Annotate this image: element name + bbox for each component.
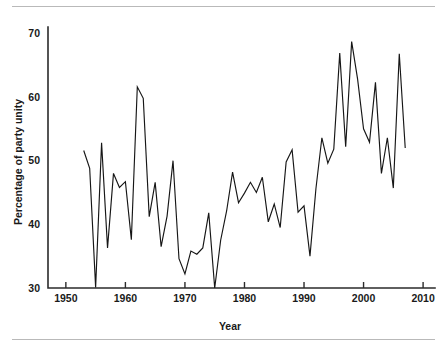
x-tick-label: 1980 — [233, 292, 257, 304]
y-tick-label: 70 — [28, 27, 40, 39]
x-tick-label: 2000 — [352, 292, 376, 304]
axes-group — [48, 27, 435, 288]
y-tick-label: 30 — [28, 282, 40, 294]
figure-container: 1950196019701980199020002010 3040506070 … — [0, 0, 447, 347]
y-tick-label: 60 — [28, 91, 40, 103]
x-axis-title: Year — [219, 320, 241, 332]
axis-lines — [48, 27, 435, 288]
line-chart: 1950196019701980199020002010 3040506070 … — [0, 0, 447, 347]
y-axis-title: Percentage of party unity — [12, 99, 24, 225]
x-tick-label: 1990 — [292, 292, 316, 304]
x-tick-label: 1950 — [54, 292, 78, 304]
y-tick-labels: 3040506070 — [28, 27, 40, 294]
x-tick-labels: 1950196019701980199020002010 — [54, 292, 435, 304]
x-tick-label: 2010 — [411, 292, 435, 304]
x-tick-label: 1970 — [173, 292, 197, 304]
x-tick-marks — [66, 282, 423, 288]
y-tick-label: 50 — [28, 154, 40, 166]
series-group — [84, 42, 406, 288]
y-tick-label: 40 — [28, 218, 40, 230]
series-line-party-unity — [84, 42, 406, 288]
x-tick-label: 1960 — [114, 292, 138, 304]
